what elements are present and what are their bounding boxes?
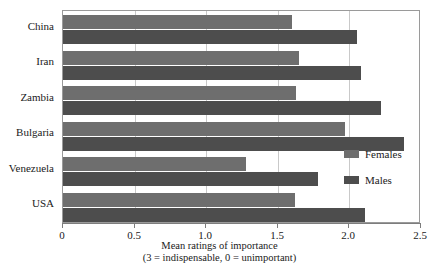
legend-label-males: Males (365, 174, 392, 186)
bar-bulgaria-females (63, 122, 345, 136)
x-axis-title-line2: (3 = indispensable, 0 = unimportant) (0, 252, 439, 264)
legend-swatch-females (344, 150, 359, 158)
bar-chart: ChinaIranZambiaBulgariaVenezuelaUSA 00.5… (0, 0, 439, 274)
x-axis-title: Mean ratings of importance (3 = indispen… (0, 240, 439, 264)
bar-group (63, 15, 419, 47)
tick-mark (205, 223, 206, 228)
legend: FemalesMales (344, 148, 402, 200)
legend-label-females: Females (365, 148, 402, 160)
bar-usa-females (63, 193, 295, 207)
category-label-bulgaria: Bulgaria (0, 126, 54, 138)
bar-venezuela-males (63, 172, 318, 186)
legend-item-males[interactable]: Males (344, 174, 402, 186)
category-label-zambia: Zambia (0, 91, 54, 103)
x-axis-title-line1: Mean ratings of importance (0, 240, 439, 252)
tick-mark (134, 223, 135, 228)
tick-mark (277, 223, 278, 228)
category-label-iran: Iran (0, 55, 54, 67)
category-axis-labels: ChinaIranZambiaBulgariaVenezuelaUSA (0, 10, 58, 223)
tick-mark (62, 223, 63, 228)
x-axis-line (62, 223, 420, 224)
bar-iran-females (63, 51, 299, 65)
legend-swatch-males (344, 176, 359, 184)
category-label-china: China (0, 20, 54, 32)
bar-venezuela-females (63, 157, 246, 171)
category-label-venezuela: Venezuela (0, 162, 54, 174)
bar-china-females (63, 15, 292, 29)
bar-iran-males (63, 66, 361, 80)
tick-mark (420, 223, 421, 228)
legend-item-females[interactable]: Females (344, 148, 402, 160)
category-label-usa: USA (0, 197, 54, 209)
bar-china-males (63, 30, 357, 44)
bar-group (63, 86, 419, 118)
bar-usa-males (63, 208, 365, 222)
bar-zambia-males (63, 101, 381, 115)
bar-zambia-females (63, 86, 296, 100)
bar-group (63, 51, 419, 83)
tick-mark (348, 223, 349, 228)
